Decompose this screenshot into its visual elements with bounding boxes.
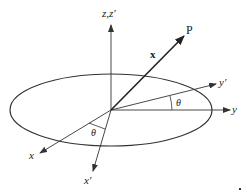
rotation-diagram: z,z′ P x y′ y θ θ x x′: [0, 0, 242, 194]
y-prime-label: y′: [218, 76, 227, 88]
x-label: x: [28, 149, 34, 161]
x-prime-label: x′: [83, 174, 92, 186]
theta-top-label: θ: [176, 97, 181, 108]
corner-mark: [239, 188, 241, 190]
z-axis-label: z,z′: [101, 7, 116, 19]
y-label: y: [231, 103, 237, 115]
angle-arc-top: [170, 96, 172, 110]
y-prime-axis: [111, 84, 216, 110]
point-label: P: [186, 23, 193, 37]
vector-label: x: [150, 48, 156, 60]
position-vector: [111, 36, 184, 110]
theta-bottom-label: θ: [91, 127, 96, 138]
